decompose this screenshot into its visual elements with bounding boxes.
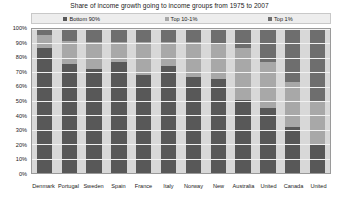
- bar-segment[interactable]: [186, 77, 201, 173]
- stacked-bar[interactable]: [136, 29, 151, 173]
- bar-slot[interactable]: [255, 29, 280, 173]
- bar-slot[interactable]: [82, 29, 107, 173]
- x-axis-tick-label: Italy: [156, 175, 181, 197]
- bar-segment[interactable]: [136, 42, 151, 75]
- x-axis-tick-label: Spain: [106, 175, 131, 197]
- stacked-bar[interactable]: [62, 29, 77, 173]
- bar-slot[interactable]: [206, 29, 231, 173]
- bar-segment[interactable]: [285, 29, 300, 82]
- bar-series-group: [32, 29, 330, 173]
- x-axis-tick-label: Canada: [281, 175, 306, 197]
- y-axis-tick-label: 30%: [16, 127, 27, 133]
- bar-segment[interactable]: [86, 42, 101, 69]
- bar-segment[interactable]: [136, 29, 151, 42]
- bar-slot[interactable]: [181, 29, 206, 173]
- bar-slot[interactable]: [280, 29, 305, 173]
- legend-label-top-1: Top 1%: [274, 16, 293, 22]
- bar-segment[interactable]: [62, 64, 77, 173]
- bar-slot[interactable]: [156, 29, 181, 173]
- bar-segment[interactable]: [260, 108, 275, 173]
- bar-segment[interactable]: [260, 62, 275, 108]
- plot-wrapper: [31, 28, 331, 174]
- stacked-bar[interactable]: [37, 29, 52, 173]
- x-axis-tick-label: Denmark: [31, 175, 56, 197]
- bar-slot[interactable]: [305, 29, 330, 173]
- bar-segment[interactable]: [62, 41, 77, 64]
- chart-title: Share of income growth going to income g…: [0, 1, 339, 10]
- chart-legend: Bottom 90% Top 10-1% Top 1%: [31, 13, 331, 24]
- plot-area: [31, 28, 331, 174]
- x-axis-tick-label: Sweden: [81, 175, 106, 197]
- y-axis: 100%90%80%70%60%50%40%30%20%10%0%: [0, 28, 29, 174]
- legend-item-top-10-1[interactable]: Top 10-1%: [131, 16, 230, 22]
- bar-segment[interactable]: [136, 75, 151, 173]
- stacked-bar[interactable]: [285, 29, 300, 173]
- bar-segment[interactable]: [285, 82, 300, 127]
- y-axis-tick-label: 70%: [16, 69, 27, 75]
- bar-slot[interactable]: [131, 29, 156, 173]
- stacked-bar[interactable]: [211, 29, 226, 173]
- y-axis-tick-label: 90%: [16, 40, 27, 46]
- bar-segment[interactable]: [111, 42, 126, 62]
- bar-segment[interactable]: [161, 42, 176, 66]
- x-axis: DenmarkPortugalSwedenSpainFranceItalyNor…: [31, 175, 331, 197]
- stacked-bar[interactable]: [86, 29, 101, 173]
- bar-segment[interactable]: [211, 29, 226, 43]
- bar-segment[interactable]: [62, 29, 77, 41]
- stacked-bar[interactable]: [111, 29, 126, 173]
- y-axis-tick-label: 20%: [16, 142, 27, 148]
- bar-segment[interactable]: [235, 48, 250, 100]
- legend-swatch-top-1: [268, 17, 272, 21]
- bar-segment[interactable]: [235, 100, 250, 173]
- stacked-bar[interactable]: [310, 29, 325, 173]
- bar-segment[interactable]: [211, 43, 226, 79]
- y-axis-tick-label: 40%: [16, 113, 27, 119]
- x-axis-tick-label: United: [256, 175, 281, 197]
- bar-segment[interactable]: [186, 29, 201, 42]
- x-axis-tick-label: Portugal: [56, 175, 81, 197]
- x-axis-tick-label: France: [131, 175, 156, 197]
- y-axis-tick-label: 0%: [19, 171, 27, 177]
- bar-segment[interactable]: [111, 62, 126, 173]
- bar-segment[interactable]: [111, 29, 126, 42]
- chart-container: Share of income growth going to income g…: [0, 0, 339, 198]
- x-axis-tick-label: Norway: [181, 175, 206, 197]
- y-axis-tick-label: 60%: [16, 83, 27, 89]
- y-axis-tick-label: 50%: [16, 98, 27, 104]
- y-axis-tick-label: 80%: [16, 54, 27, 60]
- y-axis-tick-label: 10%: [16, 156, 27, 162]
- x-axis-tick-label: New: [206, 175, 231, 197]
- legend-item-bottom-90[interactable]: Bottom 90%: [32, 16, 131, 22]
- bar-segment[interactable]: [260, 29, 275, 62]
- bar-segment[interactable]: [310, 102, 325, 144]
- bar-segment[interactable]: [310, 144, 325, 173]
- legend-swatch-bottom-90: [63, 17, 67, 21]
- bar-segment[interactable]: [161, 66, 176, 173]
- bar-segment[interactable]: [186, 42, 201, 77]
- x-axis-tick-label: Australia: [231, 175, 256, 197]
- legend-label-top-10-1: Top 10-1%: [171, 16, 198, 22]
- bar-segment[interactable]: [37, 35, 52, 48]
- bar-slot[interactable]: [106, 29, 131, 173]
- bar-segment[interactable]: [285, 127, 300, 173]
- stacked-bar[interactable]: [161, 29, 176, 173]
- bar-segment[interactable]: [37, 48, 52, 173]
- x-axis-tick-label: United: [306, 175, 331, 197]
- bar-slot[interactable]: [32, 29, 57, 173]
- stacked-bar[interactable]: [260, 29, 275, 173]
- bar-slot[interactable]: [57, 29, 82, 173]
- bar-segment[interactable]: [235, 29, 250, 48]
- stacked-bar[interactable]: [186, 29, 201, 173]
- bar-segment[interactable]: [161, 29, 176, 42]
- bar-segment[interactable]: [86, 29, 101, 42]
- bar-segment[interactable]: [86, 69, 101, 173]
- y-axis-tick-label: 100%: [13, 25, 27, 31]
- legend-label-bottom-90: Bottom 90%: [69, 16, 99, 22]
- bar-slot[interactable]: [231, 29, 256, 173]
- legend-item-top-1[interactable]: Top 1%: [231, 16, 330, 22]
- bar-segment[interactable]: [310, 29, 325, 102]
- stacked-bar[interactable]: [235, 29, 250, 173]
- legend-swatch-top-10-1: [165, 17, 169, 21]
- bar-segment[interactable]: [211, 79, 226, 173]
